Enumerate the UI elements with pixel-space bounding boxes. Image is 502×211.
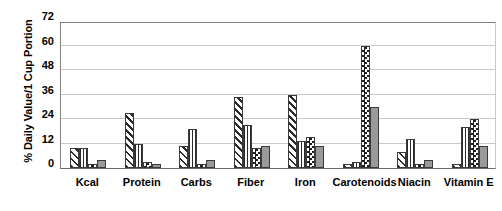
bar (297, 141, 306, 168)
bar (370, 107, 379, 168)
y-axis-tick-label: 48 (28, 60, 54, 71)
bar (424, 160, 433, 168)
bar (234, 97, 243, 168)
x-axis-tick-label: Iron (278, 176, 333, 188)
y-axis-tick-label: 60 (28, 36, 54, 47)
y-axis-tick-labels: 0122436486072 (28, 22, 54, 169)
x-axis-tick-labels: KcalProteinCarbsFiberIronCarotenoidsNiac… (60, 176, 496, 196)
y-axis-tick-label: 24 (28, 109, 54, 120)
bar (97, 160, 106, 168)
y-axis-tick-label: 36 (28, 85, 54, 96)
bar (315, 146, 324, 168)
bar (288, 95, 297, 169)
bar (152, 164, 161, 168)
bar-group (170, 23, 225, 168)
bar-group (279, 23, 334, 168)
bar (361, 46, 370, 169)
bar-group (443, 23, 498, 168)
bar (143, 162, 152, 168)
bar-group (61, 23, 116, 168)
x-axis-tick-label: Kcal (60, 176, 115, 188)
bar (88, 164, 97, 168)
bar (461, 127, 470, 168)
bar (470, 119, 479, 168)
x-axis-tick-label: Fiber (224, 176, 279, 188)
bar (352, 162, 361, 168)
bar-group (388, 23, 443, 168)
bar (397, 152, 406, 168)
bar (125, 113, 134, 168)
bar (70, 148, 79, 168)
y-axis-tick-label: 12 (28, 134, 54, 145)
bar (188, 129, 197, 168)
x-axis-tick-label: Carotenoids (333, 176, 388, 188)
bar (252, 148, 261, 168)
y-axis-tick-label: 72 (28, 11, 54, 22)
bar (206, 160, 215, 168)
bar (243, 125, 252, 168)
bar (261, 146, 270, 168)
x-axis-tick-label: Carbs (169, 176, 224, 188)
plot-area (60, 22, 496, 169)
bar (479, 146, 488, 168)
y-axis-tick-label: 0 (28, 158, 54, 169)
x-axis-tick-label: Protein (115, 176, 170, 188)
bars-layer (61, 23, 495, 168)
bar (452, 164, 461, 168)
bar (415, 164, 424, 168)
bar-chart: % Daily Value/1 Cup Portion 012243648607… (0, 0, 502, 211)
x-axis-tick-label: Niacin (387, 176, 442, 188)
bar-group (225, 23, 280, 168)
bar (134, 144, 143, 169)
bar (406, 139, 415, 168)
bar (197, 164, 206, 168)
bar (79, 148, 88, 168)
bar (306, 137, 315, 168)
x-axis-tick-label: Vitamin E (442, 176, 497, 188)
bar (179, 146, 188, 168)
bar-group (334, 23, 389, 168)
bar (343, 164, 352, 168)
bar-group (116, 23, 171, 168)
